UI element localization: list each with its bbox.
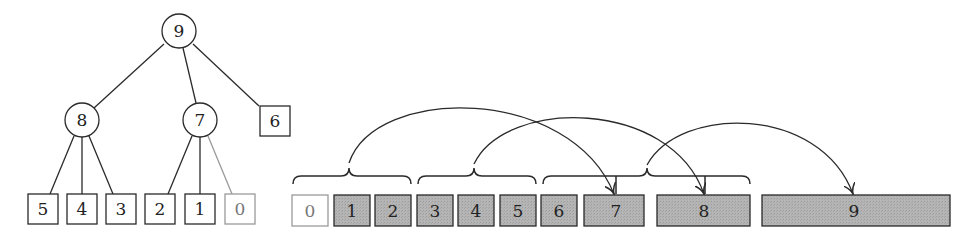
edge-7-2 bbox=[168, 136, 192, 194]
leaf-3: 3 bbox=[106, 194, 136, 224]
cell-1: 1 bbox=[334, 195, 370, 226]
cell-2: 2 bbox=[375, 195, 411, 226]
leaf-2: 2 bbox=[145, 194, 175, 224]
cell-4: 4 bbox=[458, 195, 494, 226]
cell-label: 0 bbox=[305, 201, 316, 221]
cell-label: 4 bbox=[471, 201, 482, 221]
node-label: 6 bbox=[270, 111, 281, 131]
cell-8: 8 bbox=[657, 195, 750, 226]
tree-node-8: 8 bbox=[65, 103, 99, 137]
leaf-label: 5 bbox=[38, 199, 49, 219]
node-label: 7 bbox=[195, 110, 206, 130]
array-cells: 0 1 2 3 4 5 6 7 bbox=[292, 195, 950, 226]
edge-9-6 bbox=[193, 44, 259, 106]
tree-leaves: 5 4 3 2 1 0 bbox=[28, 194, 255, 224]
edge-7-0 bbox=[208, 136, 232, 194]
cell-9: 9 bbox=[762, 195, 950, 226]
cell-label: 1 bbox=[347, 201, 358, 221]
edge-9-8 bbox=[94, 44, 164, 108]
node-label: 9 bbox=[174, 21, 185, 41]
leaf-label: 2 bbox=[155, 199, 166, 219]
brace-0-2 bbox=[293, 168, 411, 184]
cell-label: 5 bbox=[513, 201, 524, 221]
heap-diagram: 9 8 7 6 5 4 3 2 1 bbox=[0, 0, 976, 242]
tree-node-6: 6 bbox=[260, 106, 290, 136]
edge-8-5 bbox=[50, 136, 74, 194]
cell-label: 7 bbox=[611, 201, 622, 221]
edge-8-3 bbox=[89, 136, 113, 194]
cell-label: 8 bbox=[699, 201, 710, 221]
array-arrows bbox=[349, 108, 853, 194]
cell-label: 3 bbox=[430, 201, 441, 221]
leaf-label: 3 bbox=[116, 199, 127, 219]
leaf-label: 0 bbox=[235, 199, 246, 219]
cell-7: 7 bbox=[584, 195, 644, 226]
tree-node-7: 7 bbox=[183, 103, 217, 137]
array-braces bbox=[293, 168, 750, 194]
node-label: 8 bbox=[77, 110, 88, 130]
leaf-4: 4 bbox=[67, 194, 97, 224]
leaf-label: 1 bbox=[195, 199, 206, 219]
cell-label: 9 bbox=[849, 201, 860, 221]
cell-6: 6 bbox=[541, 195, 577, 226]
leaf-1: 1 bbox=[185, 194, 215, 224]
arrow-0-2-to-7 bbox=[349, 108, 614, 194]
cell-5: 5 bbox=[500, 195, 536, 226]
cell-3: 3 bbox=[417, 195, 453, 226]
leaf-5: 5 bbox=[28, 194, 58, 224]
brace-3-5 bbox=[418, 168, 536, 184]
brace-6-8 bbox=[543, 168, 750, 184]
leaf-label: 4 bbox=[77, 199, 88, 219]
leaf-0: 0 bbox=[225, 194, 255, 224]
tree-root-node: 9 bbox=[162, 14, 196, 48]
cell-label: 6 bbox=[554, 201, 565, 221]
cell-0: 0 bbox=[292, 195, 328, 226]
edge-9-7 bbox=[183, 48, 196, 103]
cell-label: 2 bbox=[388, 201, 399, 221]
